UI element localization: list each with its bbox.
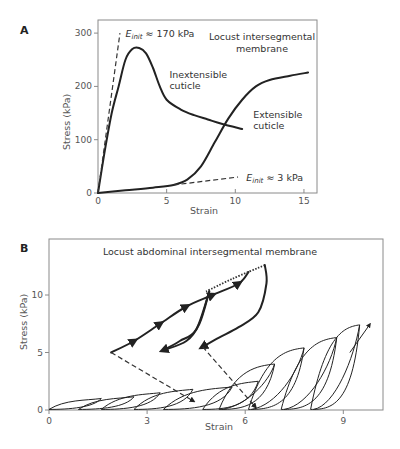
x-tick-label: 6 xyxy=(242,416,248,426)
curve-label: cuticle xyxy=(253,120,284,131)
figure: A 051015 0100200300 Strain Stress (kPa) … xyxy=(0,0,400,449)
panel-a-title-line1: Locust intersegmental xyxy=(209,31,315,42)
curve-label: Extensible xyxy=(253,109,302,120)
x-tick-label: 15 xyxy=(298,196,309,206)
y-tick-label: 5 xyxy=(37,348,43,358)
modulus-annotation: Einit ≈ 3 kPa xyxy=(246,172,303,185)
y-tick-label: 300 xyxy=(75,28,92,38)
panel-b-title: Locust abdominal intersegmental membrane xyxy=(103,246,317,257)
dashed-arrow xyxy=(203,347,255,407)
panel-b-xlabel: Strain xyxy=(205,421,233,432)
hysteresis-loop-loading xyxy=(219,364,275,409)
panel-b-ylabel: Stress (kPa) xyxy=(18,294,29,350)
x-tick-label: 0 xyxy=(46,416,52,426)
panel-a-label: A xyxy=(20,24,29,37)
panel-b: B 0369 0510 Strain Stress (kPa) Locust a… xyxy=(18,239,383,432)
inner-loop-unloading xyxy=(163,292,209,351)
hysteresis-loop-unloading xyxy=(281,338,337,410)
curve-label: cuticle xyxy=(169,80,200,91)
x-tick-label: 10 xyxy=(230,196,242,206)
hysteresis-loop-unloading xyxy=(78,397,134,410)
panel-a-xlabel: Strain xyxy=(190,205,218,216)
x-tick-label: 3 xyxy=(144,416,150,426)
x-tick-label: 0 xyxy=(95,196,101,206)
y-tick-label: 0 xyxy=(86,188,92,198)
hysteresis-loop-unloading xyxy=(49,399,101,410)
y-tick-label: 200 xyxy=(75,81,92,91)
hysteresis-loop-loading xyxy=(281,338,337,410)
hysteresis-loop-unloading xyxy=(134,389,193,409)
y-tick-label: 10 xyxy=(32,290,44,300)
modulus-annotation: Einit ≈ 170 kPa xyxy=(125,28,194,41)
y-tick-label: 0 xyxy=(37,405,43,415)
large-loop-unloading xyxy=(203,265,267,347)
series-e-init-170-kpa xyxy=(98,33,120,193)
curve-label: Inextensible xyxy=(169,69,227,80)
panel-a: A 051015 0100200300 Strain Stress (kPa) … xyxy=(20,20,317,216)
panel-b-label: B xyxy=(20,242,28,255)
panel-a-ylabel: Stress (kPa) xyxy=(61,94,72,150)
large-loop-dotted xyxy=(206,265,265,291)
x-tick-label: 9 xyxy=(340,416,346,426)
hysteresis-loop-unloading xyxy=(219,364,275,409)
x-tick-label: 5 xyxy=(164,196,170,206)
panel-b-frame xyxy=(49,239,383,410)
panel-a-title-line2: membrane xyxy=(236,43,288,54)
y-tick-label: 100 xyxy=(75,135,92,145)
